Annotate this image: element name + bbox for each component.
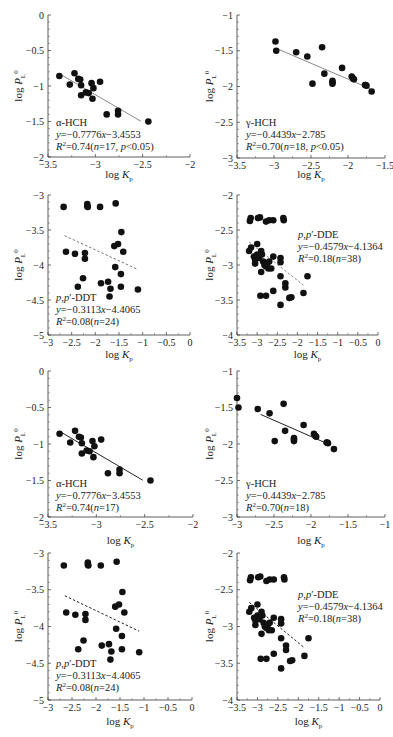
y-tick-label: −1.5 (26, 475, 44, 486)
data-point (263, 293, 270, 300)
x-tick-label: −0.5 (351, 702, 369, 713)
data-point (84, 204, 91, 211)
x-tick-label: −1.5 (339, 519, 357, 530)
data-point (282, 428, 289, 435)
x-tick-label: −2 (91, 702, 102, 713)
data-point (63, 609, 70, 616)
data-point (66, 81, 73, 88)
data-point (136, 649, 143, 656)
y-tick-label: −1 (222, 366, 233, 377)
x-tick-label: −3.5 (39, 159, 57, 170)
chart-panel-ddt-top: −3−3.5−4−4.5−5−3−2.5−2−1.5−1−0.50log Kpl… (12, 190, 193, 364)
data-point (362, 82, 369, 89)
x-tick-label: −2 (293, 702, 304, 713)
chart-panel-dde-bottom: −2−2.5−3−3.5−4−3.5−3−2.5−2−1.5−1−0.50log… (203, 548, 384, 731)
data-point (248, 574, 255, 581)
chart-panel-gamma-hch-top: −1−1.5−2−2.5−3−3.5−3−2.5−2−1.5log Kplog … (203, 10, 393, 184)
data-point (61, 562, 68, 569)
data-point (258, 631, 265, 638)
data-point (121, 609, 128, 616)
regression-equation: y=−0.4439x−2.785 (245, 490, 326, 501)
data-point (120, 248, 127, 255)
y-tick-label: −1.5 (215, 45, 233, 56)
data-point (278, 665, 285, 672)
data-point (98, 642, 105, 649)
series-name: α-HCH (56, 117, 88, 128)
y-tick-label: −0.5 (26, 402, 44, 413)
y-tick-label: −3.5 (26, 225, 44, 236)
y-tick-label: −3 (33, 548, 44, 559)
data-point (312, 433, 319, 440)
data-point (278, 620, 285, 627)
data-point (56, 430, 63, 437)
chart-panel-alpha-hch-top: 0−0.5−1−1.5−2−3.5−3−2.5−2log Kplog PL0α-… (12, 10, 195, 184)
r-squared: R2=0.18(n=38) (297, 612, 361, 625)
x-tick-label: −3 (269, 160, 280, 171)
x-axis-label: log Kp (107, 534, 135, 549)
data-point (259, 612, 266, 619)
y-tick-label: −1 (33, 81, 44, 92)
y-tick-label: −3.5 (215, 295, 233, 306)
data-point (91, 443, 98, 450)
y-tick-label: −3.5 (215, 658, 233, 669)
y-tick-label: −2 (222, 190, 233, 201)
x-axis-label: log Kp (297, 168, 325, 183)
data-point (82, 255, 89, 262)
x-tick-label: −1.5 (111, 702, 129, 713)
r-squared: R2=0.70(n=18) (245, 501, 309, 514)
data-point (71, 70, 78, 77)
data-point (288, 294, 295, 301)
r-squared: R2=0.18(n=38) (297, 252, 361, 265)
series-name: p,p′-DDE (297, 589, 339, 600)
data-point (280, 217, 287, 224)
data-point (257, 573, 264, 580)
data-point (271, 438, 278, 445)
data-point (107, 286, 114, 293)
data-point (116, 470, 123, 477)
regression-equation: y=−0.7776x−3.4553 (55, 129, 141, 140)
chart-panel-gamma-hch-bottom: −1−1.5−2−2.5−3−3−2.5−2−1.5−1log Kplog PL… (203, 366, 390, 550)
x-tick-label: −2.5 (269, 702, 287, 713)
data-point (72, 611, 79, 618)
y-tick-label: −0.5 (26, 45, 44, 56)
x-tick-label: −2 (343, 160, 354, 171)
x-tick-label: −2 (306, 519, 317, 530)
data-point (103, 111, 110, 118)
x-tick-label: −3 (252, 337, 263, 348)
series-name: p,p′-DDT (55, 658, 97, 669)
y-tick-label: −4.5 (26, 658, 44, 669)
data-point (257, 293, 264, 300)
x-tick-label: −1 (380, 519, 391, 530)
y-tick-label: −4 (33, 621, 44, 632)
data-point (268, 265, 275, 272)
x-tick-label: 0 (378, 702, 383, 713)
data-point (82, 617, 89, 624)
data-point (89, 95, 96, 102)
data-point (98, 280, 105, 287)
x-tick-label: −3.5 (228, 702, 246, 713)
data-point (105, 470, 112, 477)
data-point (118, 229, 125, 236)
data-point (270, 217, 277, 224)
x-tick-label: −2 (90, 337, 101, 348)
data-point (282, 284, 289, 291)
data-point (319, 44, 326, 51)
data-point (270, 253, 277, 260)
data-point (106, 641, 113, 648)
x-tick-label: −2.5 (268, 337, 286, 348)
x-axis-label: log Kp (105, 348, 133, 363)
data-point (300, 422, 307, 429)
data-point (339, 65, 346, 72)
y-tick-label: −2.5 (215, 475, 233, 486)
data-point (278, 635, 285, 642)
y-tick-label: −2.5 (215, 117, 233, 128)
y-tick-label: −1.5 (215, 402, 233, 413)
series-name: γ-HCH (245, 117, 277, 128)
data-point (268, 627, 275, 634)
data-point (85, 562, 92, 569)
data-point (113, 559, 120, 566)
x-tick-label: −2.5 (134, 159, 152, 170)
chart-panel-alpha-hch-bottom: 0−0.5−1−1.5−2−3.5−3−2.5−2log Kplog PL0α-… (12, 366, 198, 550)
data-point (98, 436, 105, 443)
data-point (67, 439, 74, 446)
